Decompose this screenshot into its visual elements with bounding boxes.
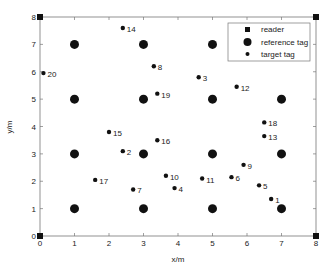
x-tick-label: 5 <box>210 239 215 248</box>
target-tag-label: 13 <box>268 133 277 142</box>
reference-tag-marker <box>70 40 79 49</box>
target-tag-label: 18 <box>268 119 277 128</box>
reference-tag-marker <box>70 204 79 213</box>
target-tag-marker <box>172 186 176 190</box>
target-tag-marker <box>234 85 238 89</box>
target-tag-label: 14 <box>127 25 136 34</box>
legend-entry-target-tag: target tag <box>261 50 295 59</box>
reference-tag-marker <box>277 149 286 158</box>
target-tag-label: 15 <box>113 129 122 138</box>
target-tag-marker <box>269 197 273 201</box>
target-tag-marker <box>262 120 266 124</box>
reader-marker <box>37 14 43 20</box>
target-tag-label: 6 <box>235 174 240 183</box>
target-tag-marker <box>155 91 159 95</box>
scatter-chart: 012345678 012345678 12345678910111213141… <box>0 0 335 268</box>
reader-marker <box>313 14 319 20</box>
target-tag-marker <box>257 183 261 187</box>
target-tag-label: 20 <box>47 70 56 79</box>
y-tick-label: 4 <box>32 123 37 132</box>
target-tag-marker <box>262 134 266 138</box>
target-tag-label: 3 <box>203 74 208 83</box>
legend-entry-reference-tag: reference tag <box>261 38 308 47</box>
reference-tag-marker <box>208 149 217 158</box>
y-tick-label: 0 <box>32 232 37 241</box>
reference-tag-marker <box>139 149 148 158</box>
target-tag-label: 11 <box>206 176 215 185</box>
legend-entry-reader: reader <box>261 25 284 34</box>
reference-tag-marker <box>139 40 148 49</box>
y-tick-label: 3 <box>32 150 37 159</box>
y-tick-label: 7 <box>32 40 37 49</box>
reader-legend-marker-icon <box>245 27 250 32</box>
target-tag-marker <box>107 130 111 134</box>
x-tick-label: 1 <box>72 239 77 248</box>
x-tick-label: 3 <box>141 239 146 248</box>
reference-tag-marker <box>208 95 217 104</box>
reference-tag-marker <box>208 204 217 213</box>
x-tick-label: 8 <box>314 239 319 248</box>
reference-tag-marker <box>139 204 148 213</box>
target-tag-label: 9 <box>248 162 253 171</box>
target-tag-label: 8 <box>158 63 163 72</box>
y-axis-label: y/m <box>5 120 14 133</box>
reader-marker <box>313 233 319 239</box>
target-tag-marker <box>229 175 233 179</box>
target-tag-marker <box>200 176 204 180</box>
x-tick-label: 4 <box>176 239 181 248</box>
y-tick-label: 8 <box>32 13 37 22</box>
target-tag-label: 17 <box>99 177 108 186</box>
target-tag-label: 7 <box>137 186 142 195</box>
x-tick-label: 0 <box>38 239 43 248</box>
target-tag-marker <box>152 64 156 68</box>
reader-marker <box>37 233 43 239</box>
reference-tag-marker <box>277 204 286 213</box>
target-tag-marker <box>93 178 97 182</box>
target-tag-marker <box>131 187 135 191</box>
y-tick-label: 6 <box>32 68 37 77</box>
target-tag-marker <box>197 75 201 79</box>
y-tick-label: 5 <box>32 95 37 104</box>
reference-tag-marker <box>208 40 217 49</box>
target-tag-label: 10 <box>170 173 179 182</box>
y-tick-label: 1 <box>32 205 37 214</box>
x-tick-label: 7 <box>279 239 284 248</box>
target-tag-marker <box>164 174 168 178</box>
x-tick-label: 2 <box>107 239 112 248</box>
legend: reader reference tag target tag <box>228 23 310 61</box>
target-tag-marker <box>121 26 125 30</box>
reference-tag-marker <box>277 95 286 104</box>
reference-tag-legend-marker-icon <box>244 38 252 46</box>
target-tag-marker <box>155 138 159 142</box>
reference-tag-marker <box>70 149 79 158</box>
target-tag-label: 1 <box>275 196 280 205</box>
x-tick-label: 6 <box>245 239 250 248</box>
target-tag-marker <box>41 71 45 75</box>
target-tag-legend-marker-icon <box>246 52 250 56</box>
reference-tag-marker <box>70 95 79 104</box>
target-tag-label: 19 <box>161 91 170 100</box>
target-tag-label: 5 <box>263 182 268 191</box>
target-tag-marker <box>121 149 125 153</box>
target-tag-label: 12 <box>241 84 250 93</box>
target-tag-label: 16 <box>161 137 170 146</box>
target-tag-label: 2 <box>127 148 132 157</box>
target-tag-marker <box>241 163 245 167</box>
y-tick-label: 2 <box>32 177 37 186</box>
target-tag-label: 4 <box>179 185 184 194</box>
x-axis-label: x/m <box>172 255 185 264</box>
reference-tag-marker <box>139 95 148 104</box>
